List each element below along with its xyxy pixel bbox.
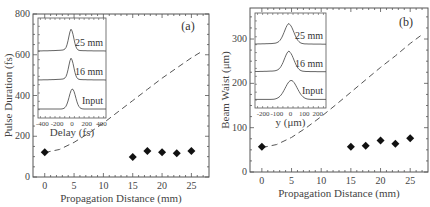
x-tick-label: 10: [316, 175, 326, 186]
data-point-diamond: [258, 143, 266, 151]
data-point-diamond: [143, 147, 151, 155]
inset-x-tick-label: -200: [257, 110, 270, 118]
chart-panel-a: 05101520250200400600800Propagation Dista…: [2, 8, 209, 205]
figure: 05101520250200400600800Propagation Dista…: [0, 0, 430, 207]
x-axis-title: Propagation Distance (mm): [278, 187, 400, 200]
x-tick-label: 20: [157, 180, 167, 191]
y-tick-label: 0: [242, 166, 247, 177]
inset-trace-label: 16 mm: [75, 66, 103, 77]
data-point-diamond: [406, 134, 414, 142]
y-tick-label: 600: [15, 49, 30, 60]
x-tick-label: 15: [128, 180, 138, 191]
inset-trace-label: Input: [302, 85, 323, 96]
x-tick-label: 15: [346, 175, 356, 186]
data-point-diamond: [158, 148, 166, 156]
data-point-diamond: [362, 142, 370, 150]
inset-trace-label: Input: [82, 95, 103, 106]
x-tick-label: 5: [72, 180, 77, 191]
y-tick-label: 400: [15, 90, 30, 101]
chart-panel-b: 05101520250100200300Propagation Distance…: [219, 8, 428, 200]
data-point-diamond: [129, 153, 137, 161]
panel-label: (a): [181, 19, 194, 33]
inset-trace-label: 16 mm: [295, 58, 323, 69]
inset-x-tick-label: -400: [36, 120, 49, 128]
inset-trace-label: 25 mm: [295, 30, 323, 41]
x-tick-label: 5: [289, 175, 294, 186]
data-point-diamond: [187, 147, 195, 155]
inset-x-axis-title: y (μm): [275, 116, 305, 129]
panel-label: (b): [399, 15, 413, 29]
y-tick-label: 100: [232, 122, 247, 133]
y-axis-title: Pulse Duration (fs): [2, 53, 15, 137]
inset-x-tick-label: 200: [313, 110, 324, 118]
data-point-diamond: [347, 143, 355, 151]
y-axis-title: Beam Waist (μm): [219, 51, 232, 129]
inset-trace-label: 25 mm: [75, 37, 103, 48]
x-tick-label: 25: [186, 180, 196, 191]
y-tick-label: 800: [15, 8, 30, 19]
x-tick-label: 25: [405, 175, 415, 186]
inset-plot: -400-2000200400Delay (fs)25 mm16 mmInput: [36, 18, 107, 139]
inset-x-tick-label: 400: [96, 120, 107, 128]
data-point-diamond: [391, 140, 399, 148]
x-axis-title: Propagation Distance (mm): [60, 192, 182, 205]
y-tick-label: 200: [232, 77, 247, 88]
y-tick-label: 200: [15, 130, 30, 141]
y-tick-label: 300: [232, 33, 247, 44]
x-tick-label: 10: [98, 180, 108, 191]
inset-x-axis-title: Delay (fs): [50, 126, 95, 139]
x-tick-label: 0: [42, 180, 47, 191]
data-point-diamond: [173, 149, 181, 157]
y-tick-label: 0: [25, 171, 30, 182]
x-tick-label: 20: [376, 175, 386, 186]
data-point-diamond: [377, 137, 385, 145]
data-point-diamond: [41, 148, 49, 156]
x-tick-label: 0: [259, 175, 264, 186]
inset-plot: -200-1000100200y (μm)25 mm16 mmInput: [255, 13, 326, 129]
